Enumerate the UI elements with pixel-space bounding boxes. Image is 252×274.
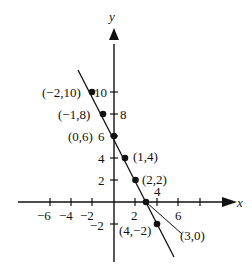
label-2-2: (2,2) <box>142 172 167 187</box>
y-axis-label: y <box>107 9 115 24</box>
point-2-2 <box>132 177 139 184</box>
x-tick-m4: −4 <box>59 208 73 223</box>
point-1-4 <box>122 155 129 162</box>
label-3-0: (3,0) <box>180 228 205 243</box>
x-tick-p2: 2 <box>131 208 138 223</box>
y-tick-p4: 4 <box>98 151 105 166</box>
y-tick-p8: 8 <box>120 107 127 122</box>
y-tick-m2: −2 <box>90 218 104 233</box>
label-4-m2: (4,−2) <box>119 223 151 238</box>
point-0-6 <box>111 133 118 140</box>
y-tick-p6: 6 <box>98 129 105 144</box>
label-0-6: (0,6) <box>68 129 93 144</box>
label-m2-10: (−2,10) <box>42 85 81 100</box>
x-tick-m6: −6 <box>37 208 51 223</box>
y-axis-arrow-icon <box>109 28 119 40</box>
point-3-0 <box>143 199 150 206</box>
label-1-4: (1,4) <box>133 149 158 164</box>
x-axis-label: x <box>236 195 243 210</box>
point-m1-8 <box>100 111 107 118</box>
x-axis-arrow-icon <box>222 197 237 207</box>
x-tick-labels: −6 −4 −2 2 4 6 <box>37 184 182 223</box>
point-4-m2 <box>154 221 161 228</box>
x-tick-p6: 6 <box>175 208 182 223</box>
y-tick-p2: 2 <box>98 173 105 188</box>
y-tick-p10: 10 <box>94 85 107 100</box>
label-m1-8: (−1,8) <box>58 107 90 122</box>
point-m2-10 <box>89 89 96 96</box>
y-tick-labels: −2 2 4 6 8 10 <box>90 85 127 233</box>
line-graph: x y −6 −4 −2 2 4 6 −2 2 4 6 8 10 <box>0 0 252 274</box>
